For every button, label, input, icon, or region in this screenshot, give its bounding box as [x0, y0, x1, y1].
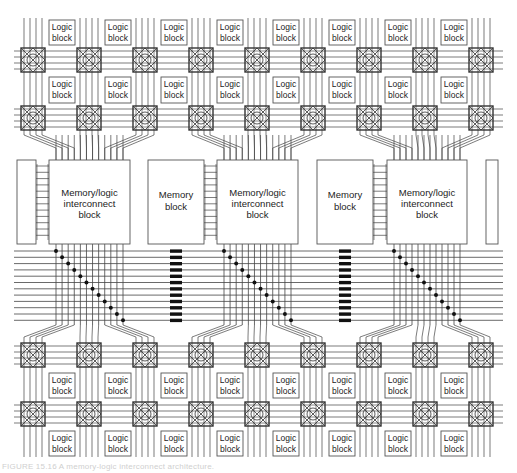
bus-switch [339, 249, 351, 252]
logic-block: Logicblock [441, 373, 467, 398]
switch-box [469, 343, 493, 367]
logic-block-label: block [164, 90, 185, 100]
connection-dot [392, 249, 396, 253]
connection-dot [121, 318, 125, 322]
logic-block-label: Logic [164, 433, 185, 443]
connection-dot [398, 255, 402, 259]
connection-dot [277, 306, 281, 310]
logic-block: Logicblock [329, 20, 355, 45]
connection-dot [452, 312, 456, 316]
connection-dot [434, 293, 438, 297]
logic-block-label: Logic [220, 375, 241, 385]
switch-box [245, 343, 269, 367]
switch-box [469, 106, 493, 130]
connection-dot [265, 293, 269, 297]
logic-block: Logicblock [217, 20, 243, 45]
logic-block-label: block [332, 33, 353, 43]
connection-dot [234, 262, 238, 266]
logic-block-label: block [220, 33, 241, 43]
logic-block-label: block [108, 386, 129, 396]
logic-block-label: Logic [332, 22, 353, 32]
connection-dot [78, 274, 82, 278]
switch-box [301, 402, 325, 426]
memory-block: Memoryblock [148, 160, 204, 244]
logic-block: Logicblock [441, 77, 467, 103]
mli-label: Memory/logic [399, 187, 456, 198]
connection-dot [222, 249, 226, 253]
connection-dot [228, 255, 232, 259]
bus-switch [170, 262, 182, 265]
logic-block-label: Logic [332, 375, 353, 385]
logic-block-label: Logic [444, 433, 465, 443]
logic-block: Logicblock [385, 373, 411, 398]
logic-block-label: Logic [164, 22, 185, 32]
logic-block: Logicblock [105, 20, 131, 45]
mli-label: interconnect [232, 198, 284, 209]
connection-dot [404, 262, 408, 266]
bus-switch [170, 275, 182, 278]
logic-block-label: block [108, 90, 129, 100]
logic-block: Logicblock [385, 431, 411, 456]
switch-box [21, 106, 45, 130]
logic-block-label: block [332, 444, 353, 454]
logic-block-label: block [52, 386, 73, 396]
memory-logic-interconnect-block: Memory/logicinterconnectblock [387, 160, 467, 244]
switch-box [469, 402, 493, 426]
logic-block-label: Logic [332, 79, 353, 89]
switch-box [245, 402, 269, 426]
switch-box [77, 402, 101, 426]
switch-box [301, 343, 325, 367]
connection-dot [440, 299, 444, 303]
logic-block-label: Logic [388, 375, 409, 385]
mli-label: block [78, 209, 100, 220]
switch-box [413, 402, 437, 426]
logic-block: Logicblock [161, 77, 187, 103]
memory-block-partial-right [486, 160, 498, 244]
bus-switch [339, 287, 351, 290]
switch-box [301, 106, 325, 130]
connection-dot [446, 306, 450, 310]
logic-block-label: block [444, 33, 465, 43]
connection-dot [428, 287, 432, 291]
switch-box [189, 402, 213, 426]
bus-switch [170, 306, 182, 309]
logic-block-label: Logic [444, 375, 465, 385]
logic-block-label: block [388, 90, 409, 100]
switch-box [469, 48, 493, 72]
connection-dot [271, 299, 275, 303]
logic-block: Logicblock [385, 20, 411, 45]
logic-block-label: Logic [108, 433, 129, 443]
switch-box [357, 343, 381, 367]
logic-block: Logicblock [441, 20, 467, 45]
connection-dot [246, 274, 250, 278]
switch-box [21, 402, 45, 426]
logic-block-label: Logic [276, 79, 297, 89]
logic-block-label: Logic [52, 375, 73, 385]
connection-dot [115, 312, 119, 316]
memory-block: Memoryblock [317, 160, 373, 244]
logic-block-label: block [164, 386, 185, 396]
switch-box [413, 343, 437, 367]
switch-box [21, 343, 45, 367]
logic-block-label: Logic [108, 22, 129, 32]
logic-block-label: Logic [332, 433, 353, 443]
bus-switch [339, 256, 351, 259]
logic-block: Logicblock [49, 373, 75, 398]
connection-dot [240, 268, 244, 272]
bus-switch [339, 300, 351, 303]
switch-box [357, 106, 381, 130]
connection-dot [72, 268, 76, 272]
switch-box [189, 343, 213, 367]
bus-switch [170, 312, 182, 315]
mli-label: block [416, 209, 438, 220]
logic-block: Logicblock [217, 431, 243, 456]
memory-logic-interconnect-block: Memory/logicinterconnectblock [49, 160, 130, 244]
logic-block: Logicblock [105, 431, 131, 456]
mli-label: block [246, 209, 268, 220]
blocks: LogicblockLogicblockLogicblockLogicblock… [17, 20, 498, 456]
logic-block-label: Logic [52, 433, 73, 443]
logic-block: Logicblock [105, 77, 131, 103]
bus-switch [339, 319, 351, 322]
bus-switch [339, 268, 351, 271]
switch-box [413, 48, 437, 72]
